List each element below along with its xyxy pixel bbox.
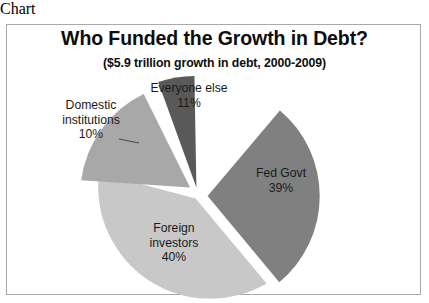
pie-label-domestic-institutions-percent: 10% <box>48 127 134 142</box>
pie-label-foreign-investors-percent: 40% <box>131 250 217 265</box>
pie-label-everyone-else-name: Everyone else <box>133 81 245 96</box>
pie-label-fed-govt-percent: 39% <box>238 181 324 196</box>
pie-label-domestic-institutions: Domestic institutions 10% <box>48 98 134 142</box>
pie-label-fed-govt-name: Fed Govt <box>238 166 324 181</box>
pie-label-foreign-investors: Foreign investors 40% <box>131 221 217 265</box>
pie-label-domestic-institutions-line1: Domestic <box>48 98 134 113</box>
pie-label-fed-govt: Fed Govt 39% <box>238 166 324 195</box>
pie-label-foreign-investors-line1: Foreign <box>131 221 217 236</box>
pie-label-foreign-investors-line2: investors <box>131 236 217 251</box>
chart-figure: Who Funded the Growth in Debt? ($5.9 tri… <box>0 18 429 303</box>
pie-label-everyone-else: Everyone else 11% <box>133 81 245 110</box>
pie-label-everyone-else-percent: 11% <box>133 96 245 111</box>
pie-label-domestic-institutions-line2: institutions <box>48 113 134 128</box>
